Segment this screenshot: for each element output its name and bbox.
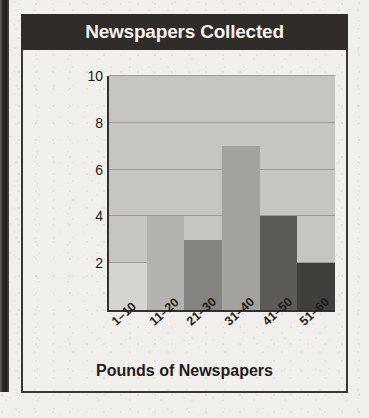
y-tick-label-10: 10 <box>73 68 103 84</box>
bar-11–20 <box>147 216 185 310</box>
x-axis-title: Pounds of Newspapers <box>23 362 346 380</box>
y-tick-label-8: 8 <box>73 115 103 131</box>
chart-title: Newspapers Collected <box>85 21 284 43</box>
y-tick-label-4: 4 <box>73 208 103 224</box>
y-axis-tick-labels: 108642 <box>69 76 103 310</box>
bar-series <box>109 76 335 310</box>
chart-title-banner: Newspapers Collected <box>21 14 348 50</box>
y-tick-label-2: 2 <box>73 255 103 271</box>
plot-area <box>107 76 335 312</box>
bar-41–50 <box>260 216 298 310</box>
bar-31–40 <box>222 146 260 310</box>
y-tick-label-6: 6 <box>73 162 103 178</box>
chart-region: Frequency (Number of Collections) 108642… <box>23 50 346 391</box>
page-binding-strip <box>0 0 9 392</box>
